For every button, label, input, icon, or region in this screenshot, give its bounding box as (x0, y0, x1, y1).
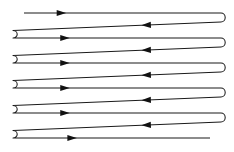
arrowhead-left-1 (141, 22, 151, 28)
serpentine-continuous-path (13, 13, 225, 138)
arrowhead-left-3 (141, 47, 151, 53)
path-stroke-layer (13, 13, 225, 138)
arrowhead-left-7 (141, 97, 151, 103)
arrowhead-right-6 (60, 85, 70, 91)
arrowhead-left-5 (141, 72, 151, 78)
arrowhead-left-9 (141, 122, 151, 128)
serpentine-path-diagram (0, 0, 234, 152)
arrowhead-right-8 (60, 110, 70, 116)
arrowhead-right-2 (60, 35, 70, 41)
arrowhead-right-10 (67, 135, 77, 141)
serpentine-path-svg (0, 0, 234, 152)
arrowhead-right-0 (57, 10, 67, 16)
arrowhead-right-4 (60, 60, 70, 66)
